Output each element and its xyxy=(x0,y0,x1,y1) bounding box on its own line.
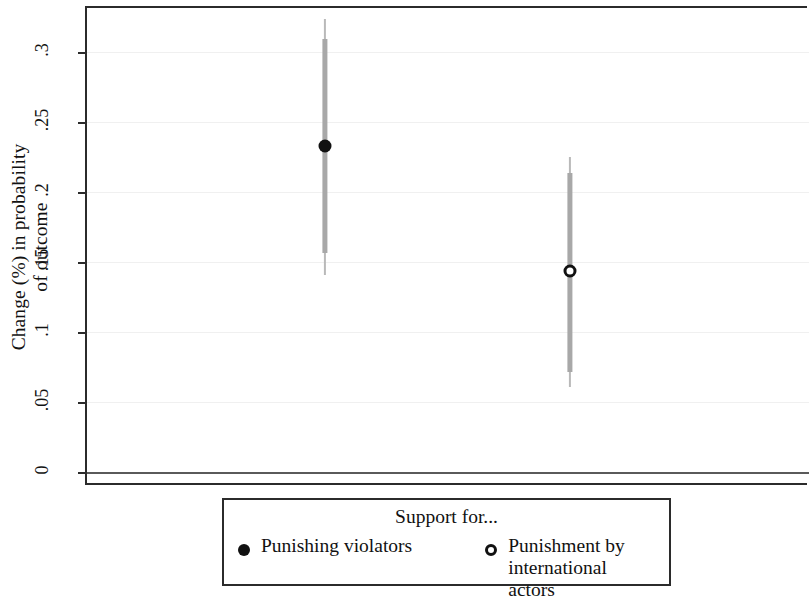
y-tick-mark-0.1 xyxy=(78,332,87,334)
y-tick-label-3: .15 xyxy=(33,232,51,288)
plot-area xyxy=(85,6,807,485)
gridline-0.25 xyxy=(87,122,809,123)
legend-entry-international-actors[interactable]: Punishment by international actors xyxy=(485,535,655,600)
legend: Support for... Punishing violators Punis… xyxy=(222,498,671,586)
legend-entry-punishing-violators[interactable]: Punishing violators xyxy=(238,535,485,557)
y-tick-mark-0.3 xyxy=(78,52,87,54)
zero-reference-line xyxy=(87,472,809,474)
gridline-0.2 xyxy=(87,192,809,193)
y-tick-label-2: .1 xyxy=(33,302,51,358)
data-point-international-actors[interactable] xyxy=(564,265,577,278)
y-tick-mark-0.25 xyxy=(78,122,87,124)
legend-key-hollow-circle-icon xyxy=(485,544,497,556)
legend-label-punishing-violators: Punishing violators xyxy=(261,535,412,557)
legend-key-filled-circle-icon xyxy=(238,544,250,556)
gridline-0.05 xyxy=(87,402,809,403)
y-tick-mark-0.15 xyxy=(78,262,87,264)
y-tick-label-6: .3 xyxy=(33,22,51,78)
data-point-punishing-violators[interactable] xyxy=(319,140,332,153)
y-tick-label-1: .05 xyxy=(33,372,51,428)
y-tick-label-5: .25 xyxy=(33,92,51,148)
gridline-0.15 xyxy=(87,262,809,263)
y-tick-label-4: .2 xyxy=(33,162,51,218)
y-tick-mark-0.05 xyxy=(78,402,87,404)
gridline-0.1 xyxy=(87,332,809,333)
y-tick-mark-0.2 xyxy=(78,192,87,194)
legend-title: Support for... xyxy=(224,506,669,528)
gridline-0.3 xyxy=(87,52,809,53)
y-tick-label-0: 0 xyxy=(33,442,51,498)
legend-label-international-actors: Punishment by international actors xyxy=(508,535,655,600)
legend-entries: Punishing violators Punishment by intern… xyxy=(224,535,669,600)
y-tick-mark-0 xyxy=(78,472,87,474)
y-axis-title-line1: Change (%) in probability xyxy=(8,82,30,412)
